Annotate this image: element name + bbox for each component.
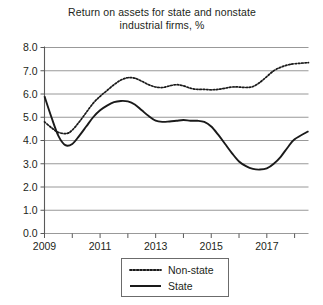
dotted-line-icon	[129, 265, 162, 275]
x-axis-ticks	[45, 234, 295, 239]
x-axis-labels: 20092011201320152017	[33, 240, 279, 251]
svg-text:3.0: 3.0	[23, 158, 38, 170]
y-axis-ticks	[41, 48, 45, 234]
svg-text:0.0: 0.0	[23, 227, 38, 239]
series-line-state	[45, 96, 309, 169]
svg-text:2017: 2017	[255, 240, 279, 251]
legend-item-non-state: Non-state	[129, 262, 214, 278]
chart-legend: Non-state State	[121, 258, 229, 297]
svg-text:1.0: 1.0	[23, 204, 38, 216]
svg-text:2009: 2009	[33, 240, 57, 251]
svg-text:7.0: 7.0	[23, 65, 38, 77]
chart-container: Return on assets for state and nonstate …	[0, 0, 323, 305]
data-series	[45, 63, 309, 170]
svg-text:6.0: 6.0	[23, 88, 38, 100]
y-axis-labels: 0.01.02.03.04.05.06.07.08.0	[23, 41, 38, 239]
svg-text:2.0: 2.0	[23, 181, 38, 193]
svg-text:4.0: 4.0	[23, 134, 38, 146]
svg-text:2011: 2011	[89, 240, 112, 251]
solid-line-icon	[129, 281, 162, 291]
legend-label-non-state: Non-state	[168, 264, 214, 276]
svg-text:2013: 2013	[144, 240, 168, 251]
chart-plot-area: 0.01.02.03.04.05.06.07.08.0 200920112013…	[0, 0, 323, 250]
svg-text:5.0: 5.0	[23, 111, 38, 123]
series-line-non-state	[45, 63, 309, 134]
legend-label-state: State	[168, 280, 193, 292]
svg-text:8.0: 8.0	[23, 41, 38, 53]
svg-text:2015: 2015	[200, 240, 224, 251]
legend-item-state: State	[129, 278, 193, 294]
